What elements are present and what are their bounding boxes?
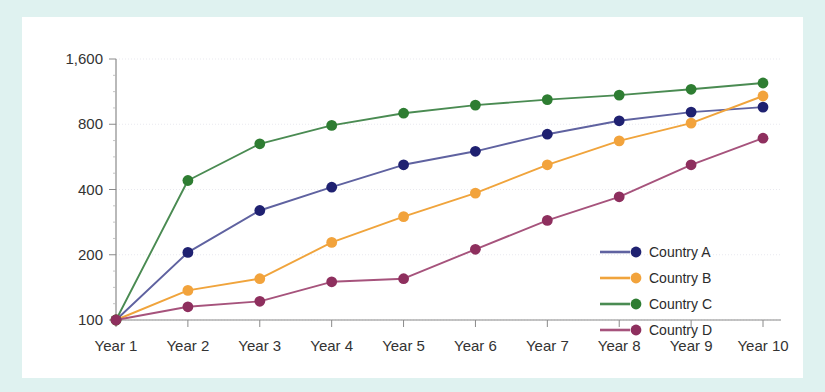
data-point-country-b: [183, 285, 194, 296]
data-point-country-a: [326, 182, 337, 193]
data-point-country-a: [758, 102, 769, 113]
y-axis-tick-label: 800: [78, 115, 103, 132]
legend-item-country-c[interactable]: Country C: [649, 296, 712, 312]
data-point-country-a: [542, 129, 553, 140]
y-axis-tick-label: 400: [78, 181, 103, 198]
data-point-country-a: [398, 159, 409, 170]
y-axis-tick-label: 100: [78, 311, 103, 328]
data-point-country-a: [614, 115, 625, 126]
line-chart: 1002004008001,600 Year 1Year 2Year 3Year…: [22, 17, 803, 378]
data-point-country-d: [686, 159, 697, 170]
data-point-country-a: [183, 247, 194, 258]
data-point-country-d: [183, 301, 194, 312]
legend-swatch-marker: [631, 273, 642, 284]
data-point-country-d: [398, 273, 409, 284]
x-axis-tick-label: Year 6: [454, 337, 497, 354]
legend-swatch-marker: [631, 325, 642, 336]
legend-item-country-d[interactable]: Country D: [649, 322, 712, 338]
data-point-country-b: [614, 136, 625, 147]
y-axis-tick-labels: 1002004008001,600: [65, 50, 103, 328]
x-axis-tick-label: Year 1: [95, 337, 138, 354]
legend-item-country-a[interactable]: Country A: [649, 244, 711, 260]
chart-legend[interactable]: Country ACountry BCountry CCountry D: [600, 244, 712, 338]
data-point-country-c: [758, 78, 769, 89]
x-axis-tick-label: Year 8: [598, 337, 641, 354]
data-point-country-b: [254, 273, 265, 284]
data-point-country-b: [758, 91, 769, 102]
data-point-country-a: [254, 205, 265, 216]
series-line-country-a: [116, 107, 763, 320]
data-point-country-d: [614, 191, 625, 202]
series-line-country-d: [116, 138, 763, 320]
data-point-country-c: [326, 120, 337, 131]
data-point-country-c: [254, 138, 265, 149]
data-point-country-d: [758, 133, 769, 144]
data-point-country-d: [326, 276, 337, 287]
chart-card: 1002004008001,600 Year 1Year 2Year 3Year…: [22, 17, 803, 378]
data-point-country-b: [686, 118, 697, 129]
y-axis-tick-label: 1,600: [65, 50, 103, 67]
y-axis-tick-label: 200: [78, 246, 103, 263]
data-point-country-d: [470, 244, 481, 255]
data-point-country-b: [398, 211, 409, 222]
x-axis-tick-label: Year 9: [670, 337, 713, 354]
data-point-country-d: [254, 296, 265, 307]
data-point-country-c: [398, 108, 409, 119]
legend-swatch-marker: [631, 299, 642, 310]
legend-item-country-b[interactable]: Country B: [649, 270, 711, 286]
data-point-country-b: [326, 237, 337, 248]
data-point-country-a: [686, 107, 697, 118]
x-axis-tick-label: Year 2: [166, 337, 209, 354]
data-point-country-c: [183, 175, 194, 186]
y-axis: [109, 59, 116, 320]
data-point-country-b: [542, 159, 553, 170]
x-axis-tick-label: Year 4: [310, 337, 353, 354]
data-point-country-c: [470, 100, 481, 111]
data-point-country-c: [614, 90, 625, 101]
data-point-country-b: [470, 188, 481, 199]
x-axis-tick-label: Year 5: [382, 337, 425, 354]
data-point-country-d: [111, 315, 122, 326]
data-point-country-a: [470, 146, 481, 157]
data-point-country-d: [542, 215, 553, 226]
x-axis-tick-label: Year 7: [526, 337, 569, 354]
legend-swatch-marker: [631, 247, 642, 258]
x-axis-tick-label: Year 10: [737, 337, 788, 354]
x-axis-tick-labels: Year 1Year 2Year 3Year 4Year 5Year 6Year…: [95, 337, 789, 354]
series-line-country-b: [116, 96, 763, 320]
data-point-country-c: [542, 94, 553, 105]
data-point-country-c: [686, 84, 697, 95]
x-axis-tick-label: Year 3: [238, 337, 281, 354]
